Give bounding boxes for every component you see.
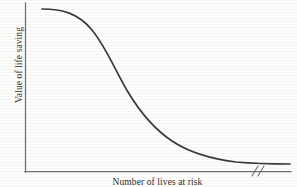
x-axis-label: Number of lives at risk	[25, 177, 290, 187]
y-axis-label: Value of life saving	[14, 5, 24, 125]
value-of-life-saving-curve	[42, 9, 290, 164]
figure-container: Value of life saving Number of lives at …	[0, 0, 297, 187]
plot-area	[0, 0, 297, 187]
